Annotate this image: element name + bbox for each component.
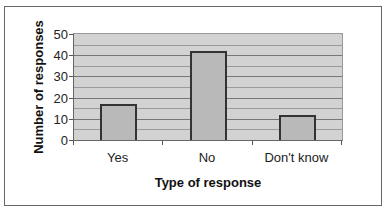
bar-don-t-know <box>279 115 316 140</box>
gridline <box>74 45 342 46</box>
y-tick-label: 50 <box>54 27 68 42</box>
y-tick-label: 40 <box>54 48 68 63</box>
y-tick-label: 0 <box>61 133 68 148</box>
y-axis-label: Number of responses <box>31 20 46 154</box>
x-category-label: No <box>199 150 216 165</box>
y-tick-label: 20 <box>54 90 68 105</box>
x-tick-mark <box>73 141 74 145</box>
x-tick-mark <box>341 141 342 145</box>
y-tick-label: 10 <box>54 111 68 126</box>
y-tick-label: 30 <box>54 69 68 84</box>
x-tick-mark <box>162 141 163 145</box>
x-axis-label: Type of response <box>155 175 262 190</box>
bar-no <box>190 51 227 140</box>
bar-yes <box>100 104 137 140</box>
plot-area <box>73 33 343 141</box>
x-tick-mark <box>252 141 253 145</box>
x-category-label: Don't know <box>264 150 328 165</box>
x-category-label: Yes <box>107 150 128 165</box>
